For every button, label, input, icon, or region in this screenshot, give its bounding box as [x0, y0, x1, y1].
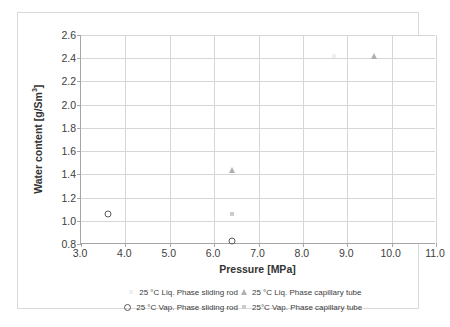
y-axis-tick-label: 2.4	[50, 53, 76, 64]
chart-legend: 25 °C Liq. Phase sliding rod25 °C Liq. P…	[80, 285, 380, 317]
x-axis-tick-label: 10.0	[371, 248, 411, 259]
legend-label: 25 °C Liq. Phase capillary tube	[252, 288, 361, 297]
gridline-vertical	[214, 35, 215, 243]
legend-marker-icon	[125, 287, 136, 298]
x-axis-title: Pressure [MPa]	[80, 263, 435, 275]
gridline-vertical	[347, 35, 348, 243]
x-axis-tick-label: 11.0	[415, 248, 450, 259]
y-axis-tick-label: 2.2	[50, 76, 76, 87]
gridline-vertical	[170, 35, 171, 243]
gridline-vertical	[436, 35, 437, 243]
y-axis-tick-mark	[77, 198, 81, 199]
gridline-vertical	[392, 35, 393, 243]
y-axis-tick-mark	[77, 105, 81, 106]
y-axis-title-text: Water content [g/Sm	[32, 92, 44, 194]
x-axis-tick-label: 7.0	[238, 248, 278, 259]
y-axis-tick-mark	[77, 58, 81, 59]
data-point-marker	[230, 212, 234, 216]
x-axis-tick-label: 3.0	[60, 248, 100, 259]
figure-frame: Water content [g/Sm3] 0.81.01.21.41.61.8…	[17, 12, 419, 309]
gridline-vertical	[125, 35, 126, 243]
data-point-marker	[104, 210, 111, 217]
legend-row: 25 °C Liq. Phase sliding rod25 °C Liq. P…	[80, 285, 380, 299]
legend-item[interactable]: 25 °C Liq. Phase sliding rod	[80, 285, 238, 299]
y-axis-tick-mark	[77, 174, 81, 175]
gridline-vertical	[259, 35, 260, 243]
x-axis-tick-label: 6.0	[193, 248, 233, 259]
y-axis-tick-label: 1.2	[50, 193, 76, 204]
data-point-marker	[229, 167, 235, 173]
legend-label: 25 °C Liq. Phase sliding rod	[139, 288, 238, 297]
y-axis-tick-label: 2.6	[50, 30, 76, 41]
legend-marker-icon	[238, 287, 249, 298]
data-point-marker	[371, 53, 377, 59]
y-axis-tick-label: 1.6	[50, 146, 76, 157]
plot-area	[80, 35, 435, 244]
legend-marker-icon	[238, 302, 249, 313]
y-axis-tick-mark	[77, 35, 81, 36]
legend-marker-icon	[122, 302, 133, 313]
y-axis-title: Water content [g/Sm3]	[31, 35, 45, 244]
x-axis-tick-labels: 3.04.05.06.07.08.09.010.011.0	[80, 248, 435, 264]
legend-item[interactable]: 25 °C Vap. Phase sliding rod	[80, 300, 238, 314]
y-axis-tick-mark	[77, 221, 81, 222]
legend-label: 25 °C Vap. Phase sliding rod	[136, 303, 238, 312]
y-axis-tick-label: 1.4	[50, 169, 76, 180]
y-axis-tick-labels: 0.81.01.21.41.61.82.02.22.42.6	[46, 35, 76, 244]
y-axis-tick-label: 2.0	[50, 100, 76, 111]
y-axis-title-superscript: 3	[32, 88, 39, 92]
x-axis-tick-label: 5.0	[149, 248, 189, 259]
y-axis-tick-mark	[77, 128, 81, 129]
data-point-marker	[228, 237, 235, 244]
x-axis-tick-label: 4.0	[104, 248, 144, 259]
y-axis-tick-label: 1.0	[50, 216, 76, 227]
y-axis-tick-mark	[77, 81, 81, 82]
data-point-marker	[332, 54, 336, 58]
legend-item[interactable]: 25 °C Liq. Phase capillary tube	[238, 285, 380, 299]
legend-label: 25°C Vap. Phase capillary tube	[252, 303, 362, 312]
legend-row: 25 °C Vap. Phase sliding rod25°C Vap. Ph…	[80, 300, 380, 314]
y-axis-title-tail: ]	[32, 85, 44, 89]
gridline-vertical	[303, 35, 304, 243]
x-axis-tick-label: 8.0	[282, 248, 322, 259]
y-axis-tick-mark	[77, 151, 81, 152]
legend-item[interactable]: 25°C Vap. Phase capillary tube	[238, 300, 380, 314]
x-axis-tick-label: 9.0	[326, 248, 366, 259]
y-axis-tick-label: 1.8	[50, 123, 76, 134]
